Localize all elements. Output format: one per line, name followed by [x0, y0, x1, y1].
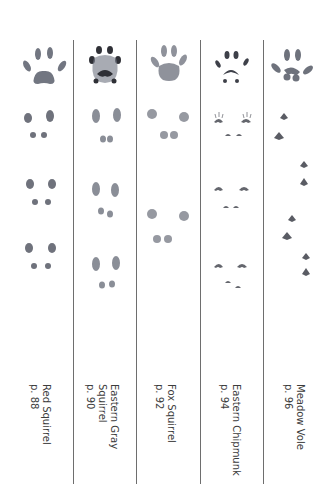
column-red-squirrel: Red Squirrel p. 88 [0, 0, 73, 500]
species-label-eastern-gray-squirrel: Eastern Gray Squirrel p. 90 [84, 384, 120, 449]
gray-squirrel-track-group-3-icon [91, 256, 123, 296]
page-reference: p. 90 [84, 384, 96, 449]
page-reference: p. 88 [28, 384, 40, 445]
gray-squirrel-track-group-1-icon [91, 108, 123, 148]
species-name: Red Squirrel [40, 384, 52, 445]
red-squirrel-hind-foot-icon [22, 42, 70, 88]
gray-squirrel-hind-foot-icon [88, 44, 122, 86]
species-label-meadow-vole: Meadow Vole p. 96 [282, 384, 306, 450]
species-name-line-1: Eastern Gray [108, 384, 120, 449]
species-label-eastern-chipmunk: Eastern Chipmunk p. 94 [218, 384, 242, 476]
gray-squirrel-track-group-2-icon [91, 181, 123, 221]
species-name: Fox Squirrel [165, 384, 177, 443]
chipmunk-hind-foot-icon [215, 48, 249, 86]
meadow-vole-track-group-3-icon [280, 210, 304, 246]
meadow-vole-track-group-1-icon [272, 108, 296, 144]
page-reference: p. 92 [153, 384, 165, 443]
species-name: Eastern Chipmunk [230, 384, 242, 476]
meadow-vole-hind-foot-icon [270, 46, 314, 86]
column-eastern-gray-squirrel: Eastern Gray Squirrel p. 90 [74, 0, 136, 500]
fox-squirrel-track-group-1-icon [147, 108, 191, 142]
chipmunk-track-group-3-icon [211, 255, 255, 291]
red-squirrel-track-group-3-icon [21, 240, 61, 274]
chipmunk-track-group-1-icon [211, 110, 255, 140]
chipmunk-track-group-2-icon [211, 178, 255, 212]
column-meadow-vole: Meadow Vole p. 96 [264, 0, 332, 500]
meadow-vole-track-group-4-icon [296, 250, 320, 286]
fox-squirrel-track-group-2-icon [147, 208, 191, 246]
species-name: Meadow Vole [294, 384, 306, 450]
species-label-red-squirrel: Red Squirrel p. 88 [28, 384, 52, 445]
fox-squirrel-hind-foot-icon [151, 44, 187, 84]
column-fox-squirrel: Fox Squirrel p. 92 [137, 0, 200, 500]
page-reference: p. 94 [218, 384, 230, 476]
species-name-line-2: Squirrel [96, 384, 108, 449]
meadow-vole-track-group-2-icon [294, 156, 318, 192]
column-eastern-chipmunk: Eastern Chipmunk p. 94 [201, 0, 263, 500]
page-reference: p. 96 [282, 384, 294, 450]
species-label-fox-squirrel: Fox Squirrel p. 92 [153, 384, 177, 443]
red-squirrel-track-group-1-icon [20, 110, 60, 144]
red-squirrel-track-group-2-icon [22, 176, 62, 210]
